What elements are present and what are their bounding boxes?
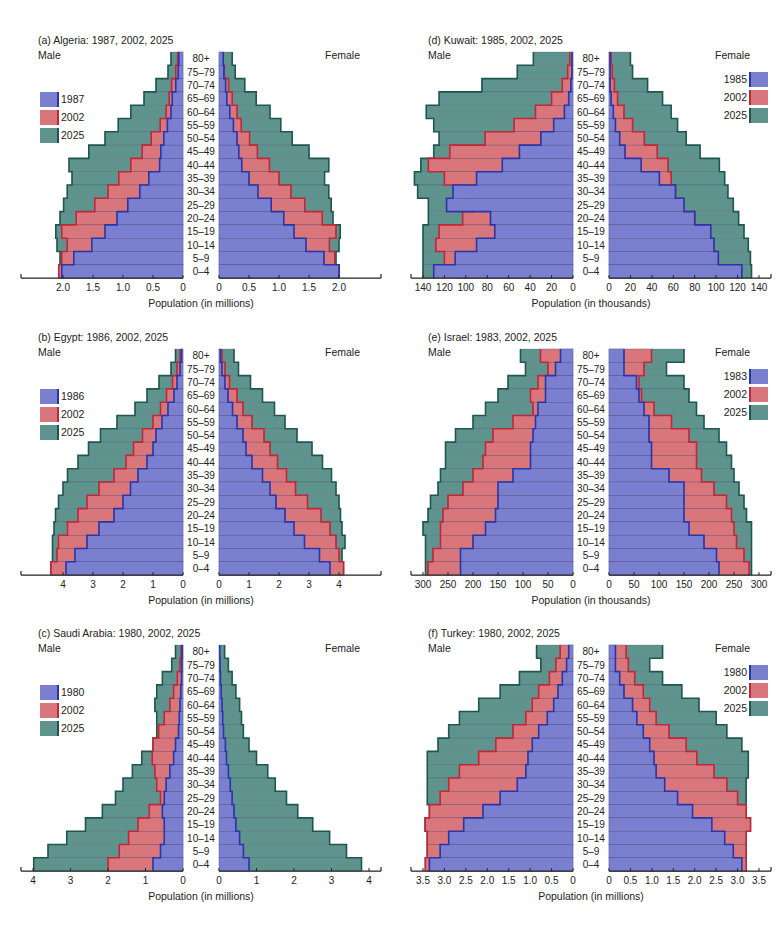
svg-text:100: 100 [458, 282, 475, 293]
svg-text:80+: 80+ [193, 350, 210, 361]
legend-swatch [749, 108, 768, 123]
pyramid-panel-kuwait: 00202040406060808010010012012014014080+7… [390, 30, 780, 325]
svg-text:120: 120 [436, 282, 453, 293]
legend-swatch [40, 703, 59, 718]
svg-text:2: 2 [120, 579, 126, 590]
svg-text:100: 100 [651, 579, 668, 590]
svg-text:50–54: 50–54 [187, 726, 215, 737]
svg-text:15–19: 15–19 [187, 523, 215, 534]
svg-text:15–19: 15–19 [187, 226, 215, 237]
legend-swatch [749, 72, 768, 87]
svg-text:0–4: 0–4 [193, 266, 210, 277]
svg-text:50–54: 50–54 [577, 726, 605, 737]
svg-text:80+: 80+ [583, 646, 600, 657]
svg-text:70–74: 70–74 [577, 673, 605, 684]
legend-label: 2025 [61, 722, 84, 734]
legend-swatch [40, 685, 59, 700]
male-label: Male [38, 49, 61, 61]
svg-text:40–44: 40–44 [577, 753, 605, 764]
svg-text:3.5: 3.5 [416, 875, 430, 886]
legend-item-1980: 1980 [40, 683, 84, 701]
svg-text:10–14: 10–14 [187, 240, 215, 251]
svg-text:1.5: 1.5 [502, 875, 516, 886]
svg-text:55–59: 55–59 [577, 713, 605, 724]
legend-item-2025: 2025 [708, 403, 768, 421]
legend: 198320022025 [708, 367, 768, 421]
svg-text:10–14: 10–14 [187, 833, 215, 844]
legend: 198020022025 [40, 683, 84, 737]
svg-text:40–44: 40–44 [187, 160, 215, 171]
svg-text:2.0: 2.0 [480, 875, 494, 886]
svg-text:50–54: 50–54 [577, 133, 605, 144]
legend-swatch [40, 425, 59, 440]
svg-text:4: 4 [60, 579, 66, 590]
male-label: Male [428, 642, 451, 654]
legend: 198620022025 [40, 387, 84, 441]
legend-item-2002: 2002 [40, 701, 84, 719]
legend-item-2025: 2025 [708, 106, 768, 124]
svg-text:10–14: 10–14 [187, 537, 215, 548]
svg-text:1: 1 [150, 579, 156, 590]
chart-title: (f) Turkey: 1980, 2002, 2025 [428, 627, 560, 639]
legend-item-2025: 2025 [708, 699, 768, 717]
svg-text:5–9: 5–9 [583, 846, 600, 857]
svg-text:80: 80 [689, 282, 701, 293]
svg-text:2.5: 2.5 [459, 875, 473, 886]
svg-text:0: 0 [180, 875, 186, 886]
svg-text:0–4: 0–4 [583, 563, 600, 574]
x-axis-label: Population (in thousands) [396, 594, 780, 606]
svg-text:80: 80 [482, 282, 494, 293]
svg-text:1.5: 1.5 [302, 282, 316, 293]
svg-text:20: 20 [625, 282, 637, 293]
svg-text:50: 50 [542, 579, 554, 590]
svg-text:30–34: 30–34 [187, 483, 215, 494]
svg-text:60–64: 60–64 [577, 700, 605, 711]
svg-text:2: 2 [276, 579, 282, 590]
svg-text:3.0: 3.0 [731, 875, 745, 886]
svg-text:40: 40 [646, 282, 658, 293]
legend-swatch [40, 110, 59, 125]
svg-text:300: 300 [415, 579, 432, 590]
svg-text:3: 3 [68, 875, 74, 886]
svg-text:45–49: 45–49 [187, 739, 215, 750]
legend-swatch [749, 665, 768, 680]
svg-text:70–74: 70–74 [577, 80, 605, 91]
legend-swatch [40, 407, 59, 422]
svg-text:1.5: 1.5 [666, 875, 680, 886]
legend-item-2002: 2002 [708, 88, 768, 106]
legend-item-1983: 1983 [708, 367, 768, 385]
legend-item-1986: 1986 [40, 387, 84, 405]
svg-text:35–39: 35–39 [187, 766, 215, 777]
svg-text:5–9: 5–9 [583, 253, 600, 264]
svg-text:25–29: 25–29 [187, 200, 215, 211]
female-label: Female [715, 346, 750, 358]
legend-item-2002: 2002 [40, 108, 84, 126]
svg-text:25–29: 25–29 [187, 793, 215, 804]
svg-text:80+: 80+ [583, 53, 600, 64]
svg-text:4: 4 [30, 875, 36, 886]
svg-text:75–79: 75–79 [577, 67, 605, 78]
legend-swatch [749, 701, 768, 716]
legend: 198520022025 [708, 70, 768, 124]
svg-text:15–19: 15–19 [577, 819, 605, 830]
svg-text:5–9: 5–9 [583, 550, 600, 561]
svg-text:2.5: 2.5 [709, 875, 723, 886]
pyramid-plot: 000.50.51.01.01.51.52.02.080+75–7970–746… [0, 30, 390, 325]
svg-text:65–69: 65–69 [577, 93, 605, 104]
svg-text:0: 0 [606, 282, 612, 293]
svg-text:70–74: 70–74 [187, 80, 215, 91]
legend-label: 2025 [724, 109, 747, 121]
legend-label: 2002 [61, 111, 84, 123]
age-group-labels: 80+75–7970–7465–6960–6455–5950–5445–4940… [577, 53, 605, 277]
svg-text:75–79: 75–79 [187, 660, 215, 671]
age-group-labels: 80+75–7970–7465–6960–6455–5950–5445–4940… [187, 646, 215, 870]
legend-item-2002: 2002 [40, 405, 84, 423]
legend-swatch [40, 128, 59, 143]
pyramid-panel-israel: 00505010010015015020020025025030030080+7… [390, 327, 780, 622]
svg-text:4: 4 [366, 875, 372, 886]
svg-text:30–34: 30–34 [577, 779, 605, 790]
svg-text:50–54: 50–54 [577, 430, 605, 441]
svg-text:75–79: 75–79 [577, 364, 605, 375]
svg-text:4: 4 [336, 579, 342, 590]
svg-text:25–29: 25–29 [577, 497, 605, 508]
